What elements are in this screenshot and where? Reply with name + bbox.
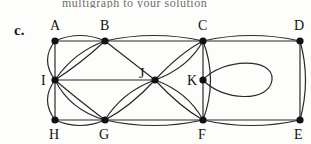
vertex-label-C: C [198, 18, 207, 33]
vertex-label-D: D [294, 18, 304, 33]
edge-B-C-2 [105, 36, 203, 42]
vertex-label-G: G [99, 127, 109, 142]
vertex-K [199, 76, 206, 83]
edge-B-I-1 [55, 41, 105, 80]
edge-A-I-2 [48, 41, 56, 80]
edge-G-F-2 [105, 120, 203, 126]
edge-C-D-2 [203, 36, 300, 42]
vertex-G [101, 116, 108, 123]
edge-K-selfloop [203, 63, 272, 96]
vertex-H [51, 116, 58, 123]
edge-H-G-2 [55, 120, 105, 126]
vertex-label-E: E [294, 127, 303, 142]
vertex-label-K: K [187, 73, 197, 88]
vertex-label-B: B [100, 18, 109, 33]
vertex-C [199, 37, 206, 44]
edge-I-H-2 [48, 80, 56, 120]
vertex-J [151, 76, 158, 83]
vertex-E [296, 116, 303, 123]
edge-J-G-2 [105, 80, 155, 120]
figure-canvas: multigraph to your solution c. [0, 0, 311, 144]
edge-A-B-2 [55, 36, 105, 42]
vertex-label-F: F [198, 127, 206, 142]
edge-J-G-1 [105, 80, 155, 120]
edge-layer [48, 36, 306, 126]
edge-B-J-1 [105, 41, 155, 80]
vertex-B [101, 37, 108, 44]
vertex-label-J: J [139, 66, 145, 81]
vertex-D [296, 37, 303, 44]
vertex-label-H: H [49, 127, 59, 142]
vertex-I [51, 76, 58, 83]
multigraph-svg: A B C D I J K H G F E [0, 0, 311, 144]
vertex-A [51, 37, 58, 44]
edge-F-E-2 [203, 120, 300, 126]
vertex-F [199, 116, 206, 123]
edge-B-I-2 [55, 41, 105, 80]
edge-I-G-1 [55, 80, 105, 120]
vertex-label-A: A [50, 18, 61, 33]
vertex-label-I: I [41, 73, 46, 88]
edge-D-E-2 [300, 41, 306, 120]
